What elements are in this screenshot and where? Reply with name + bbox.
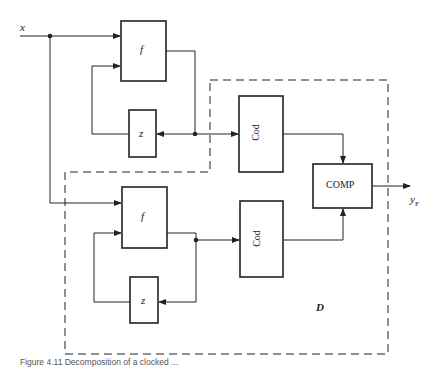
wire-z-bottom-feedback bbox=[94, 233, 130, 302]
f-bottom-block bbox=[122, 187, 167, 248]
f-bottom-label: f bbox=[141, 210, 144, 222]
junction-node bbox=[193, 132, 198, 137]
wire-f-top-out bbox=[166, 51, 195, 134]
wire-z-top-feedback bbox=[92, 66, 129, 134]
block-diagram bbox=[0, 0, 442, 372]
z-bottom-label: z bbox=[141, 294, 145, 306]
f-top-block bbox=[121, 21, 166, 81]
junction-node bbox=[194, 238, 199, 243]
wire-cod-bottom-to-comp bbox=[283, 209, 343, 240]
junction-node bbox=[48, 34, 53, 39]
input-label-x: x bbox=[20, 21, 25, 33]
figure-caption: Figure 4.11 Decomposition of a clocked .… bbox=[20, 357, 178, 367]
cod-top-block bbox=[239, 96, 283, 172]
z-top-label: z bbox=[139, 127, 143, 139]
region-d-boundary bbox=[65, 80, 388, 354]
comp-label: COMP bbox=[326, 179, 354, 190]
cod-top-label: Cod bbox=[250, 124, 261, 141]
region-label-d: D bbox=[316, 301, 324, 313]
output-label-subscript: F bbox=[415, 200, 419, 208]
wire-x-to-f-bottom bbox=[50, 36, 121, 203]
output-label-yf: yF bbox=[410, 193, 419, 208]
wire-cod-top-to-comp bbox=[283, 134, 343, 163]
cod-bottom-label: Cod bbox=[251, 230, 262, 247]
f-top-label: f bbox=[140, 43, 143, 55]
wire-f-bottom-out bbox=[167, 233, 196, 302]
